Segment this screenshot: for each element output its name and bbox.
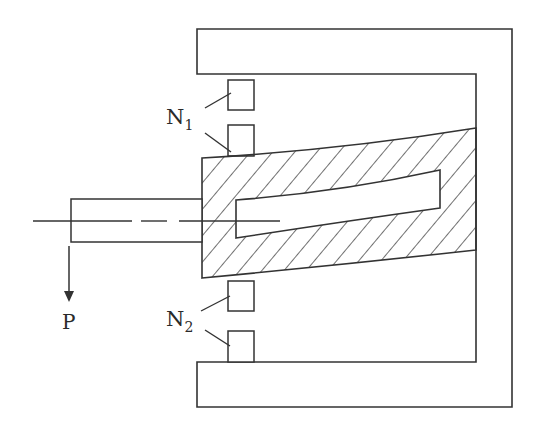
- leader-lines-n2: [201, 296, 230, 346]
- coil-n1-lower: [228, 125, 254, 156]
- label-n1: N1: [166, 105, 193, 133]
- magnetic-sensor-diagram: N1 N2 P: [0, 0, 541, 431]
- label-n2: N2: [166, 307, 193, 335]
- label-load-p: P: [62, 310, 75, 334]
- coil-n1-upper: [228, 80, 254, 110]
- coil-n2-upper: [228, 281, 254, 311]
- load-arrow: [64, 246, 74, 302]
- leader-lines-n1: [205, 93, 231, 152]
- coil-n2-lower: [228, 331, 254, 362]
